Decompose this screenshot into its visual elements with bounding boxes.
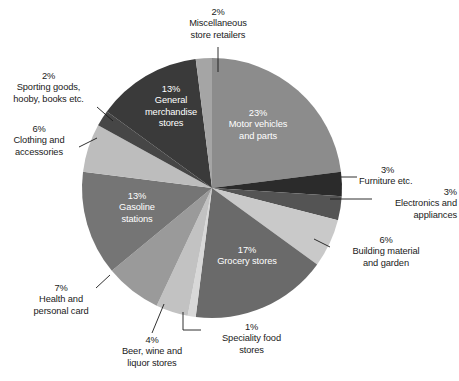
callout-building-material-and-garden: 6% Building material and garden — [331, 235, 441, 269]
callout-clothing-and-accessories: 6% Clothing and accessories — [0, 124, 78, 158]
callout-sporting-line2: hooby, books etc. — [0, 94, 97, 105]
callout-beer-line2: liquor stores — [102, 358, 202, 369]
callout-clothing-percent: 6% — [0, 124, 78, 135]
pie-chart-figure: 2% Miscellaneous store retailers 2% Spor… — [0, 0, 459, 381]
callout-beer-line1: Beer, wine and — [102, 346, 202, 357]
callout-health-line2: personal card — [16, 306, 106, 317]
callout-speciality-food-stores: 1% Speciality food stores — [203, 322, 300, 356]
callout-sporting-goods: 2% Sporting goods, hooby, books etc. — [0, 71, 97, 105]
callout-electronics-line1: Electronics and — [359, 198, 457, 209]
slice-general-line3: stores — [125, 118, 217, 129]
slice-label-motor-vehicles-and-parts: 23% Motor vehicles and parts — [203, 108, 313, 142]
slice-label-gasoline-stations: 13% Gasoline stations — [97, 191, 177, 225]
callout-electronics-and-appliances: 3% Electronics and appliances — [359, 187, 457, 221]
callout-building-line2: and garden — [331, 258, 441, 269]
slice-gasoline-percent: 13% — [97, 191, 177, 202]
callout-furniture: 3% Furniture etc. — [359, 165, 459, 188]
callout-clothing-line2: accessories — [0, 147, 78, 158]
slice-motor-line2: and parts — [203, 131, 313, 142]
leader-line-beer — [152, 304, 164, 333]
callout-health-percent: 7% — [16, 283, 106, 294]
callout-misc-line1: Miscellaneous — [160, 18, 276, 29]
callout-clothing-line1: Clothing and — [0, 135, 78, 146]
slice-motor-line1: Motor vehicles — [203, 119, 313, 130]
slice-gasoline-line1: Gasoline — [97, 202, 177, 213]
callout-miscellaneous-store-retailers: 2% Miscellaneous store retailers — [160, 7, 276, 41]
slice-label-general-merchandise-stores: 13% General merchandise stores — [125, 84, 217, 130]
slice-label-grocery-stores: 17% Grocery stores — [195, 245, 299, 268]
callout-speciality-line2: stores — [203, 345, 300, 356]
slice-general-line1: General — [125, 95, 217, 106]
callout-building-percent: 6% — [331, 235, 441, 246]
callout-furniture-percent: 3% — [359, 165, 416, 176]
callout-sporting-percent: 2% — [0, 71, 97, 82]
callout-misc-percent: 2% — [160, 7, 276, 18]
callout-beer-wine-liquor-stores: 4% Beer, wine and liquor stores — [102, 335, 202, 369]
callout-building-line1: Building material — [331, 246, 441, 257]
slice-motor-percent: 23% — [203, 108, 313, 119]
slice-gasoline-line2: stations — [97, 214, 177, 225]
callout-electronics-percent: 3% — [359, 187, 457, 198]
callout-speciality-percent: 1% — [203, 322, 300, 333]
slice-grocery-line1: Grocery stores — [195, 256, 299, 267]
callout-sporting-line1: Sporting goods, — [0, 82, 97, 93]
callout-misc-line2: store retailers — [160, 30, 276, 41]
callout-electronics-line2: appliances — [359, 210, 457, 221]
callout-health-line1: Health and — [16, 294, 106, 305]
slice-general-percent: 13% — [125, 84, 217, 95]
callout-beer-percent: 4% — [102, 335, 202, 346]
callout-speciality-line1: Speciality food — [203, 333, 300, 344]
slice-general-line2: merchandise — [125, 107, 217, 118]
callout-health-and-personal-card: 7% Health and personal card — [16, 283, 106, 317]
slice-grocery-percent: 17% — [195, 245, 299, 256]
